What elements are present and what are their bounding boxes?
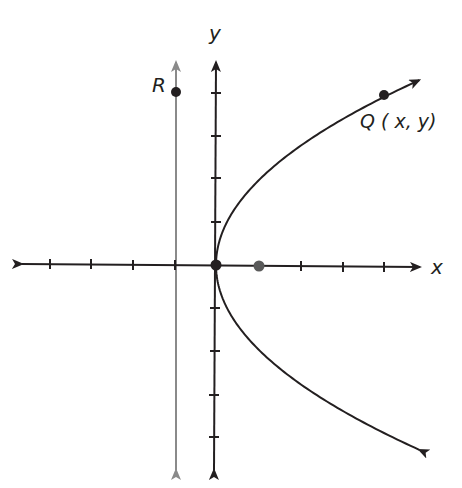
point-q-label: Q ( x, y): [360, 110, 436, 132]
point-r: [171, 87, 181, 97]
focus-point: [254, 261, 265, 272]
point-r-label: R: [152, 73, 166, 97]
vertex-point: [211, 260, 222, 271]
parabola-diagram: y x R Q ( x, y): [0, 0, 462, 488]
x-axis-label: x: [430, 255, 443, 279]
point-q: [379, 90, 389, 100]
y-axis-label: y: [208, 21, 222, 45]
